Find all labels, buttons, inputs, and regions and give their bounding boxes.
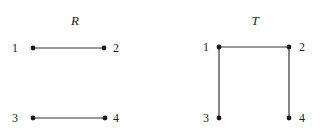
graph-t-canvas bbox=[0, 0, 319, 135]
graph-t-vertex-label-3: 3 bbox=[195, 112, 209, 124]
graph-t-vertex-4 bbox=[287, 116, 292, 121]
graph-t-vertex-1 bbox=[217, 45, 222, 50]
graph-t-vertex-label-1: 1 bbox=[195, 41, 209, 53]
graph-t-vertex-label-4: 4 bbox=[299, 112, 313, 124]
graph-t-vertex-label-2: 2 bbox=[299, 41, 313, 53]
graph-t-vertex-2 bbox=[287, 45, 292, 50]
graph-figure: R 1 2 3 4 T 1 2 3 4 bbox=[0, 0, 319, 135]
graph-t-vertex-3 bbox=[217, 116, 222, 121]
